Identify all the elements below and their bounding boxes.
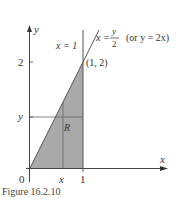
slant-line-alt: (or y = 2x) [126, 32, 169, 44]
slant-line-denominator: 2 [112, 39, 117, 49]
y-axis-label: y [33, 23, 39, 35]
slant-line-lhs: x = [95, 32, 110, 43]
slant-line-numerator: y [111, 26, 116, 36]
origin-label: 0 [19, 173, 25, 185]
region-diagram: y x 2 y 0 x 1 R (1, 2) x = 1 x = y 2 (or… [0, 0, 180, 204]
vertical-line-label: x = 1 [55, 40, 77, 51]
y-tick-label-2: 2 [18, 56, 24, 68]
x-var-label: x [58, 173, 64, 185]
y-var-label: y [17, 110, 23, 122]
figure-caption: Figure 16.2.10 [2, 186, 61, 197]
region-label: R [63, 122, 70, 133]
point-label: (1, 2) [86, 57, 108, 69]
x-tick-label-1: 1 [80, 173, 86, 185]
x-axis-arrow-icon [160, 166, 168, 171]
y-axis-arrow-icon [27, 25, 32, 32]
x-axis-label: x [159, 153, 165, 165]
